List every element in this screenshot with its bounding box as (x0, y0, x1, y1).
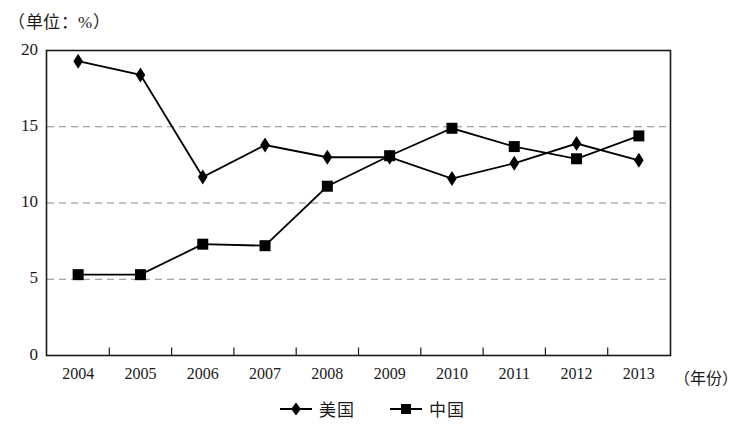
x-axis-tick-label: 2004 (47, 365, 109, 383)
data-point-square (446, 123, 457, 134)
chart-legend: 美国 中国 (0, 396, 743, 421)
line-chart: （单位：%） 05101520 200420052006200720082009… (0, 0, 743, 434)
data-point-diamond (260, 138, 270, 153)
y-axis-tick-label: 0 (6, 345, 38, 365)
data-point-square (197, 239, 208, 250)
x-axis-title: （年份） (674, 365, 738, 389)
data-point-diamond (323, 150, 333, 165)
data-point-square (135, 269, 146, 280)
x-axis-tick-label: 2006 (172, 365, 234, 383)
square-marker-icon (389, 401, 423, 417)
x-axis-tick-label: 2005 (109, 365, 171, 383)
diamond-marker-icon (279, 401, 313, 417)
legend-item-china: 中国 (389, 396, 465, 421)
data-point-square (633, 130, 644, 141)
series-line (78, 61, 639, 178)
data-point-square (260, 240, 271, 251)
x-axis-tick-label: 2012 (545, 365, 607, 383)
legend-label-china: 中国 (429, 396, 465, 421)
data-point-diamond (572, 136, 582, 151)
legend-item-usa: 美国 (279, 396, 355, 421)
series-usa (73, 54, 643, 186)
data-point-diamond (447, 171, 457, 186)
data-point-square (73, 269, 84, 280)
data-point-square (571, 153, 582, 164)
data-point-square (384, 150, 395, 161)
x-axis-ticks (109, 348, 607, 356)
x-axis-tick-label: 2013 (608, 365, 670, 383)
y-axis-tick-label: 20 (6, 40, 38, 60)
data-point-diamond (634, 153, 644, 168)
legend-label-usa: 美国 (319, 396, 355, 421)
data-point-square (322, 181, 333, 192)
data-point-square (509, 141, 520, 152)
x-axis-tick-label: 2009 (359, 365, 421, 383)
data-point-diamond (509, 156, 519, 171)
x-axis-tick-label: 2007 (234, 365, 296, 383)
x-axis-tick-label: 2010 (421, 365, 483, 383)
y-axis-tick-label: 5 (6, 268, 38, 288)
y-axis-tick-label: 10 (6, 192, 38, 212)
data-series-layer (73, 54, 645, 280)
x-axis-tick-label: 2011 (483, 365, 545, 383)
x-axis-tick-label: 2008 (296, 365, 358, 383)
y-axis-tick-label: 15 (6, 116, 38, 136)
data-point-diamond (73, 54, 83, 69)
series-china (73, 123, 645, 280)
